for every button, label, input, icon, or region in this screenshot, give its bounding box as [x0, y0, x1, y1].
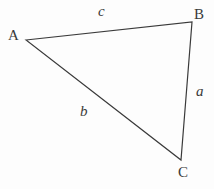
vertex-label-b: B [194, 7, 204, 22]
side-label-a: a [196, 84, 204, 99]
side-label-b: b [80, 104, 88, 119]
vertex-label-c: C [178, 165, 188, 180]
triangle-shape [26, 22, 192, 160]
side-label-c: c [98, 4, 105, 19]
vertex-label-a: A [8, 28, 19, 43]
triangle-outline [0, 0, 214, 189]
triangle-diagram: A B C a b c [0, 0, 214, 189]
